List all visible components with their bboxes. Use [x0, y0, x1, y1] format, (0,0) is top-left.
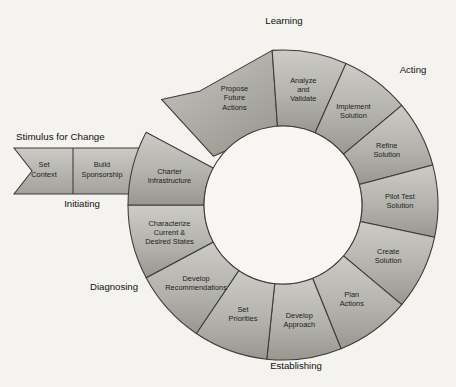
phase-initiating: Initiating [64, 198, 100, 209]
segment-analyze-and-validate-line-1: and [297, 85, 309, 94]
segment-charter-infrastructure-line-1: Infrastructure [148, 176, 192, 185]
segment-pilot-test-solution-line-1: Solution [387, 201, 414, 210]
phase-diagnosing: Diagnosing [90, 281, 138, 292]
segment-analyze-and-validate-line-2: Validate [290, 94, 316, 103]
segment-plan-actions-line-1: Actions [340, 299, 365, 308]
segment-characterize-states-line-1: Current & [154, 228, 186, 237]
step-set-context-line-0: Set [38, 160, 49, 169]
phase-establishing: Establishing [270, 360, 322, 371]
segment-propose-future-actions-line-2: Actions [222, 103, 247, 112]
cycle-ring: ProposeFutureActionsAnalyzeandValidateIm… [128, 50, 438, 360]
segment-set-priorities-line-1: Priorities [229, 314, 258, 323]
diagram-canvas: SetContextBuildSponsorshipStimulus for C… [0, 0, 456, 387]
stimulus-for-change-title: Stimulus for Change [16, 131, 105, 142]
segment-create-solution-line-0: Create [377, 247, 399, 256]
segment-characterize-states-line-0: Characterize [149, 219, 191, 228]
segment-develop-recommendations-line-0: Develop [182, 274, 209, 283]
step-build-sponsorship-line-0: Build [94, 160, 110, 169]
step-set-context-line-1: Context [31, 170, 56, 179]
segment-develop-approach-line-0: Develop [286, 311, 313, 320]
segment-pilot-test-solution-line-0: Pilot Test [385, 192, 415, 201]
segment-plan-actions-line-0: Plan [344, 290, 359, 299]
stimulus-for-change-bar: SetContextBuildSponsorshipStimulus for C… [14, 131, 146, 194]
segment-create-solution-line-1: Solution [375, 256, 402, 265]
segment-characterize-states-line-2: Desired States [145, 237, 194, 246]
step-build-sponsorship-line-1: Sponsorship [81, 170, 122, 179]
phase-learning: Learning [265, 15, 302, 26]
segment-refine-solution-line-1: Solution [373, 150, 400, 159]
cycle-inner-hole [204, 126, 362, 284]
segment-develop-recommendations-line-1: Recommendations [165, 283, 227, 292]
segment-implement-solution-line-0: Implement [336, 102, 371, 111]
segment-propose-future-actions-line-0: Propose [221, 84, 249, 93]
segment-propose-future-actions-line-1: Future [224, 93, 245, 102]
segment-develop-approach-line-1: Approach [283, 320, 315, 329]
segment-implement-solution-line-1: Solution [340, 111, 367, 120]
segment-analyze-and-validate-line-0: Analyze [290, 76, 316, 85]
segment-refine-solution-line-0: Refine [376, 141, 397, 150]
phase-acting: Acting [400, 64, 427, 75]
change-cycle-diagram: SetContextBuildSponsorshipStimulus for C… [0, 0, 456, 387]
segment-charter-infrastructure[interactable]: CharterInfrastructure [128, 132, 213, 205]
segment-set-priorities-line-0: Set [237, 305, 248, 314]
segment-charter-infrastructure-line-0: Charter [157, 167, 182, 176]
